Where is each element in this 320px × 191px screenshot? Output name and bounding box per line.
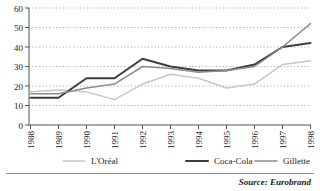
- x-tick-label-1991: 1991: [110, 131, 120, 149]
- y-tick-label-60: 60: [14, 4, 24, 14]
- x-tick-label-1994: 1994: [194, 131, 204, 150]
- x-tick-label-1988: 1988: [26, 131, 36, 150]
- x-tick-label-1992: 1992: [138, 131, 148, 149]
- series-group: [31, 24, 311, 100]
- legend-label-coca-cola: Coca-Cola: [214, 156, 253, 166]
- legend-label-l-or-al: L'Oréal: [91, 156, 119, 166]
- series-line-gillette: [31, 24, 311, 94]
- y-tick-label-40: 40: [14, 43, 24, 53]
- x-tick-label-1996: 1996: [250, 131, 260, 150]
- y-tick-label-10: 10: [14, 101, 24, 111]
- x-tickmarks: [31, 125, 311, 129]
- y-tick-label-30: 30: [14, 62, 24, 72]
- x-tick-label-1995: 1995: [222, 131, 232, 150]
- line-chart: 60 50 40 30 20 10 0 1988 1989 1990: [0, 0, 320, 191]
- x-tick-label-1993: 1993: [166, 131, 176, 150]
- y-tick-label-50: 50: [14, 23, 24, 33]
- source-note: Source: Eurobrand: [239, 177, 312, 187]
- chart-figure: 60 50 40 30 20 10 0 1988 1989 1990: [0, 0, 320, 191]
- x-tick-label-1989: 1989: [54, 131, 64, 150]
- x-tick-label-1998: 1998: [306, 131, 316, 150]
- y-tickmarks: [25, 8, 29, 125]
- x-tick-label-1997: 1997: [278, 131, 288, 150]
- x-tick-labels: 1988 1989 1990 1991 1992 1993 1994 1995 …: [26, 131, 316, 150]
- chart-legend: L'OréalCoca-ColaGillette: [63, 156, 310, 166]
- series-line-coca-cola: [31, 43, 311, 98]
- y-tick-label-0: 0: [19, 121, 24, 131]
- legend-label-gillette: Gillette: [283, 156, 310, 166]
- x-tick-label-1990: 1990: [82, 131, 92, 150]
- y-tick-label-20: 20: [14, 82, 24, 92]
- y-tick-labels: 60 50 40 30 20 10 0: [14, 4, 24, 131]
